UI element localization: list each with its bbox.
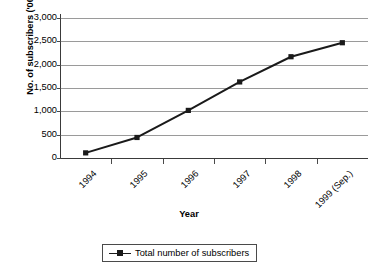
x-tick-label: 1996 xyxy=(179,168,201,190)
x-tick-label: 1994 xyxy=(76,168,98,190)
x-tick-label: 1997 xyxy=(230,168,252,190)
line-chart-figure: No. of subscribers ('000) 05001,0001,500… xyxy=(0,0,378,272)
legend-line-marker-icon xyxy=(109,248,131,258)
x-tick-label: 1995 xyxy=(128,168,150,190)
x-axis-title: Year xyxy=(0,209,378,219)
x-tick-label: 1999 (Sep.) xyxy=(313,168,354,209)
legend-square-marker xyxy=(117,250,123,256)
x-tick-label: 1998 xyxy=(282,168,304,190)
chart-legend: Total number of subscribers xyxy=(102,244,257,262)
legend-entry-label: Total number of subscribers xyxy=(135,248,249,258)
x-axis-tick-labels: 199419951996199719981999 (Sep.) xyxy=(0,0,378,272)
